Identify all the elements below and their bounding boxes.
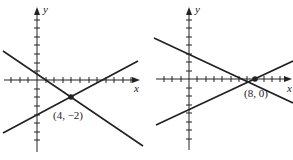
- right-x-axis-label: x: [286, 82, 292, 94]
- left-y-axis-label: y: [42, 3, 48, 15]
- left-graph: [3, 7, 143, 152]
- left-x-axis-label: x: [133, 82, 139, 94]
- left-intersection-label: (4, −2): [53, 109, 83, 122]
- right-intersection-point: [252, 76, 258, 82]
- left-intersection-point: [68, 94, 74, 100]
- graphs-figure: y x (4, −2): [0, 0, 293, 160]
- right-intersection-label: (8, 0): [244, 87, 268, 100]
- right-graph: [154, 7, 293, 150]
- left-y-axis-arrow-icon: [34, 7, 40, 15]
- right-y-axis-arrow-icon: [186, 7, 192, 15]
- right-y-axis-label: y: [194, 3, 200, 15]
